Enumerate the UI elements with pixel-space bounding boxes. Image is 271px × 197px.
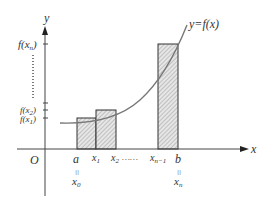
x-ellipsis: …… — [122, 152, 138, 162]
x-tick-label-xn-1: xn−1 — [149, 152, 166, 165]
y-axis-arrow-icon — [42, 26, 48, 35]
x-tick-label-a: a — [73, 152, 79, 166]
rectangle-n — [158, 44, 178, 149]
x-axis-label: x — [250, 142, 257, 156]
origin-label: O — [30, 153, 39, 167]
y-tick-label-fxn: f(xn) — [18, 38, 37, 52]
x-tick-label-b: b — [175, 152, 181, 166]
x-tick-label-x2: x2 — [110, 152, 119, 165]
x-tick-label-x1: x1 — [91, 152, 100, 165]
curve-label: y=f(x) — [188, 17, 219, 31]
y-tick-label-fx1: f(x1) — [20, 114, 36, 126]
x-tick-label-xn: xn — [173, 175, 183, 189]
rectangles — [77, 44, 178, 149]
x-tick-label-x0: x0 — [71, 175, 81, 189]
x-axis-arrow-icon — [240, 146, 249, 152]
riemann-sum-diagram: y x O y=f(x) f(xn) f(x2) f(x1) a || x0 x… — [0, 0, 271, 197]
y-axis-label: y — [43, 11, 50, 25]
